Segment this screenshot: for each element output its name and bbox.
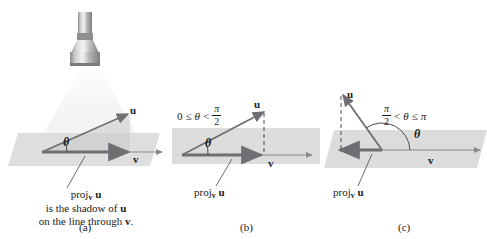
caption-line3-period: . [130,215,133,227]
caption-line-1: projv u [0,188,172,202]
vector-v-label: v [133,153,139,166]
ineq-frac-numerator: π [382,104,391,115]
ineq-rel-right: < [203,110,209,122]
caption-line-2: is the shadow of u [0,202,172,215]
projection-label: projv u [194,186,225,200]
ineq-frac-denominator: 2 [382,116,391,127]
ineq-rel-left: < [394,110,400,122]
proj-operand: u [218,186,224,198]
vector-v-label: v [268,157,274,170]
ineq-rel-right: ≤ [412,110,418,122]
panel-a-tag: (a) [79,221,91,233]
proj-text: proj [333,186,351,198]
caption-proj-operand: u [95,188,101,200]
vector-u-label: u [254,98,260,111]
panel-c-inequality: π 2 < θ ≤ π [382,104,426,127]
ineq-upper-bound: π [421,110,427,122]
proj-subscript: v [351,191,355,200]
ineq-rel-left: ≤ [186,110,192,122]
flashlight-icon [70,12,100,66]
ineq-fraction: π 2 [212,104,221,127]
caption-proj-text: proj [71,188,89,200]
plane-band [172,128,320,164]
vector-projection-figure: u v θ projv u is the shadow of u on the … [0,0,487,239]
panel-a: u v θ projv u is the shadow of u on the … [0,0,172,239]
panel-b-tag: (b) [240,221,253,233]
caption-proj-subscript: v [88,193,92,202]
ineq-theta: θ [195,110,200,122]
proj-subscript: v [212,191,216,200]
ineq-theta: θ [403,110,408,122]
panel-b-inequality: 0 ≤ θ < π 2 [177,104,221,127]
projection-label: projv u [333,186,364,200]
angle-theta-label: θ [63,136,69,150]
angle-theta-label: θ [414,128,420,142]
ineq-frac-numerator: π [212,104,221,115]
vector-v-label: v [428,154,434,167]
vector-u-label: u [347,88,353,101]
panel-c-tag: (c) [398,221,410,233]
ineq-lower-bound: 0 [177,110,183,122]
angle-theta-label: θ [205,137,211,151]
panel-c: π 2 < θ ≤ π u v θ projv u (c) [320,0,487,239]
panel-b: 0 ≤ θ < π 2 u v θ projv u (b) [172,0,320,239]
proj-operand: u [357,186,363,198]
ineq-frac-denominator: 2 [212,116,221,127]
ineq-fraction: π 2 [382,104,391,127]
caption-line2-vector: u [120,202,126,214]
proj-text: proj [194,186,212,198]
caption-line2-text: is the shadow of [46,202,121,214]
vector-u-label: u [130,104,136,117]
